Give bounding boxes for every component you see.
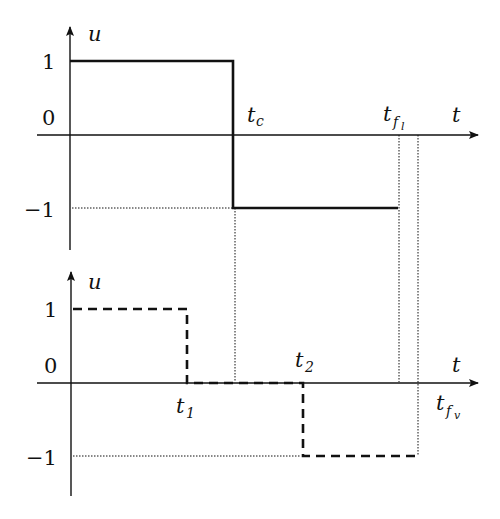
svg-text:f: f <box>445 403 454 419</box>
top-t-label: t <box>452 103 461 127</box>
t2-label: t 2 <box>295 348 314 375</box>
top-plot: u 1 0 −1 t t c t f l <box>24 22 478 456</box>
svg-text:t: t <box>247 103 256 127</box>
svg-text:f: f <box>392 114 401 130</box>
svg-text:c: c <box>256 113 264 129</box>
tfv-label: t f v <box>436 391 461 422</box>
svg-text:t: t <box>436 391 445 415</box>
svg-text:t: t <box>295 348 304 372</box>
top-tick-one: 1 <box>42 50 55 74</box>
svg-text:t: t <box>176 394 185 418</box>
top-tick-minus-one: −1 <box>24 198 55 222</box>
bottom-u-label: u <box>88 270 102 294</box>
svg-text:1: 1 <box>186 405 195 421</box>
bottom-plot: u 1 0 −1 t t 1 t 2 t f v <box>26 270 478 496</box>
bottom-tick-zero: 0 <box>44 354 57 378</box>
svg-text:v: v <box>454 409 461 422</box>
bottom-tick-one: 1 <box>44 298 57 322</box>
top-u-label: u <box>88 22 102 46</box>
svg-text:l: l <box>401 120 405 133</box>
bang-bang-control-diagram: u 1 0 −1 t t c t f l u 1 0 −1 t t 1 <box>0 0 500 519</box>
t1-label: t 1 <box>176 394 195 421</box>
top-tick-zero: 0 <box>42 106 55 130</box>
tfl-label: t f l <box>383 102 405 133</box>
tc-label: t c <box>247 103 264 129</box>
bottom-tick-minus-one: −1 <box>26 446 57 470</box>
svg-text:2: 2 <box>304 359 314 375</box>
svg-text:t: t <box>383 102 392 126</box>
bottom-t-label: t <box>452 353 461 377</box>
